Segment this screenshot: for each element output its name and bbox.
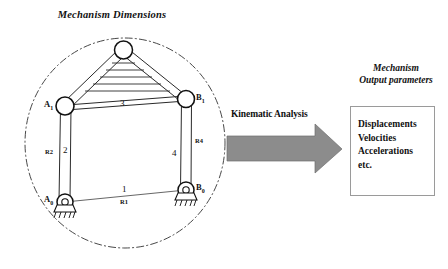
dimension-label-r4: R4 [195,137,203,144]
link-3-edge-bottom-outer [66,101,186,110]
link-3-edge-left-inner [68,56,124,110]
link-3-edge-left-outer [62,48,120,104]
link-label-4: 4 [172,148,177,158]
output-item-etc: etc. [358,159,417,173]
link-label-1: 1 [122,184,127,194]
joint-label-b0: B0 [196,182,205,194]
output-item-displacements: Displacements [358,118,417,132]
joint-a1-circle [56,97,74,115]
joint-label-a1: A1 [44,99,53,111]
joint-apex-circle [115,41,133,59]
link-4-edge-right [191,100,192,190]
dimension-label-r1: R1 [120,198,128,205]
output-parameters-list: Displacements Velocities Accelerations e… [358,118,417,172]
dimension-label-r2: R2 [45,148,53,155]
output-item-velocities: Velocities [358,132,417,146]
joint-b1-circle [178,91,195,108]
output-item-accelerations: Accelerations [358,145,417,159]
joint-b0-fixed-pivot [175,182,197,206]
mechanism-dimensions-heading: Mechanism Dimensions [47,9,177,20]
link-4-edge-left [181,100,182,190]
link-label-3: 3 [120,98,125,108]
joint-label-a0: A0 [44,194,53,206]
kinematic-analysis-label: Kinematic Analysis [231,109,308,119]
link-3-hatching [85,63,170,91]
kinematic-analysis-arrow [227,124,342,173]
link-2-edge-left [59,107,61,201]
joint-a0-fixed-pivot [54,194,76,218]
output-parameters-heading: Mechanism Output parameters [350,62,442,86]
output-heading-line-1: Mechanism [373,63,419,73]
link-3-edge-bottom-inner [67,96,185,105]
figure-canvas: Mechanism Dimensions Mechanism Output pa… [0,0,448,269]
output-heading-line-2: Output parameters [359,75,433,85]
link-2-edge-right [70,107,71,201]
joint-label-b1: B1 [196,92,205,104]
link-label-2: 2 [63,145,68,155]
